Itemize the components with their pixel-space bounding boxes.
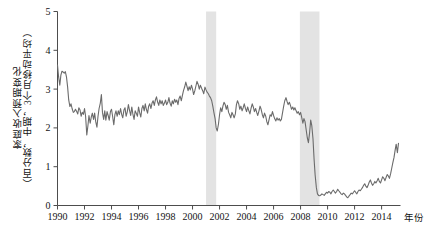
x-tick-label: 1990 — [48, 211, 68, 222]
x-tick-label: 1992 — [75, 211, 95, 222]
line-chart: 012345 199019921994199619982000200220042… — [0, 0, 433, 239]
x-axis-title: 年份 — [404, 212, 424, 223]
y-tick-label: 1 — [46, 161, 51, 172]
y-tick-label: 4 — [46, 45, 51, 56]
y-tick-label: 3 — [46, 84, 51, 95]
x-axis-ticks: 1990199219941996199820002002200420062008… — [48, 206, 392, 222]
axis-lines — [58, 12, 401, 206]
x-tick-label: 2008 — [291, 211, 311, 222]
x-tick-label: 2002 — [210, 211, 230, 222]
x-tick-label: 2012 — [345, 211, 365, 222]
x-tick-label: 1996 — [129, 211, 149, 222]
x-tick-label: 1998 — [156, 211, 176, 222]
y-tick-label: 5 — [46, 6, 51, 17]
recession-bands — [206, 12, 319, 206]
x-tick-label: 1994 — [102, 211, 122, 222]
recession-band — [206, 12, 216, 206]
y-tick-label: 2 — [46, 122, 51, 133]
chart-figure: 家庭收入预期变化 （百分数，中期，3个月移动平均） 012345 1990199… — [0, 0, 433, 239]
x-tick-label: 2006 — [264, 211, 284, 222]
x-tick-label: 2010 — [318, 211, 338, 222]
x-tick-label: 2014 — [372, 211, 392, 222]
x-tick-label: 2000 — [183, 211, 203, 222]
x-tick-label: 2004 — [237, 211, 257, 222]
data-series-line — [58, 65, 399, 198]
y-tick-label: 0 — [46, 200, 51, 211]
recession-band — [300, 12, 320, 206]
y-axis-ticks: 012345 — [46, 6, 58, 211]
